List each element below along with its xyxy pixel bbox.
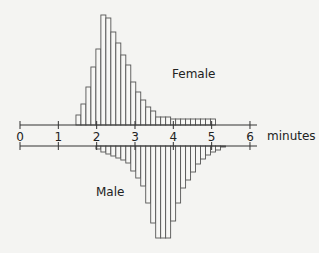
female-bar [131, 82, 136, 125]
female-bar [166, 117, 171, 125]
male-bar [166, 146, 171, 238]
male-bar [136, 146, 141, 178]
male-bar [186, 146, 191, 180]
female-bar [196, 119, 201, 125]
male-bar [116, 146, 121, 158]
female-bar [141, 100, 146, 125]
female-bar [201, 119, 206, 125]
male-bar [106, 146, 111, 154]
tick-label: 3 [131, 130, 139, 144]
x-axis-label: minutes [267, 129, 316, 143]
male-bar [156, 146, 161, 238]
female-bar [76, 115, 81, 125]
female-bar [161, 117, 166, 125]
female-bar [156, 117, 161, 125]
male-bar [171, 146, 176, 221]
female-bar [121, 55, 126, 125]
male-bar [196, 146, 201, 164]
back-to-back-histogram: 0123456 Female Male minutes [0, 0, 319, 253]
female-bar [126, 65, 131, 125]
male-bar [126, 146, 131, 163]
female-bar [96, 49, 101, 125]
male-bar [176, 146, 181, 203]
female-bar [111, 32, 116, 125]
male-bar [146, 146, 151, 203]
tick-label: 6 [246, 130, 254, 144]
tick-label: 5 [208, 130, 216, 144]
male-bar [201, 146, 206, 159]
female-bar [206, 119, 211, 125]
female-bar [136, 92, 141, 125]
female-bar [81, 104, 86, 125]
male-bar [121, 146, 126, 160]
male-bar [215, 146, 220, 150]
male-bar [181, 146, 186, 188]
female-bar [101, 15, 106, 125]
female-bar [91, 67, 96, 125]
female-bar [181, 119, 186, 125]
male-bar [141, 146, 146, 186]
female-bar [191, 119, 196, 125]
tick-label: 0 [16, 130, 24, 144]
female-bar [106, 18, 111, 125]
male-bar [191, 146, 196, 172]
tick-label: 1 [55, 130, 63, 144]
female-bar [146, 107, 151, 125]
female-bar [176, 119, 181, 125]
male-bar [111, 146, 116, 156]
male-bar [151, 146, 156, 223]
female-label: Female [172, 67, 215, 81]
female-bar [186, 119, 191, 125]
female-bar [116, 43, 121, 125]
tick-label: 2 [93, 130, 101, 144]
male-bar [206, 146, 211, 155]
male-label: Male [96, 185, 124, 199]
tick-label: 4 [169, 130, 177, 144]
female-bar [86, 87, 91, 125]
male-bar [101, 146, 106, 152]
male-bar [161, 146, 166, 238]
female-bar [151, 111, 156, 125]
